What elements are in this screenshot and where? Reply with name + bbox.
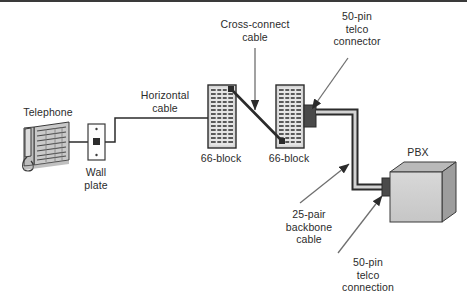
label-telco-connector: 50-pin telco connector — [333, 10, 380, 48]
label-pbx: PBX — [407, 146, 428, 159]
label-telco-connection: 50-pin telco connection — [342, 256, 394, 294]
label-66-block-left: 66-block — [201, 152, 242, 165]
label-66-block-right: 66-block — [269, 152, 310, 165]
leader-backbone-cable — [300, 164, 349, 203]
leader-telco-connection — [338, 196, 382, 253]
wall-plate-icon — [88, 124, 105, 160]
label-telephone: Telephone — [23, 106, 72, 119]
leader-telco-connector — [312, 58, 348, 109]
telco-connector-icon — [304, 105, 316, 127]
cable-cross-connect — [231, 89, 282, 141]
66-block-left-icon — [208, 85, 236, 148]
label-horizontal-cable: Horizontal cable — [141, 89, 189, 114]
cable-backbone — [316, 112, 390, 187]
label-cross-connect-cable: Cross-connect cable — [221, 18, 290, 43]
label-wall-plate: Wall plate — [84, 166, 107, 191]
telephone-icon — [23, 122, 69, 171]
label-backbone-cable: 25-pair backbone cable — [286, 208, 332, 246]
network-diagram: Telephone Wall plate Horizontal cable Cr… — [0, 0, 467, 306]
cable-horizontal — [105, 118, 208, 142]
pbx-icon — [382, 162, 456, 222]
